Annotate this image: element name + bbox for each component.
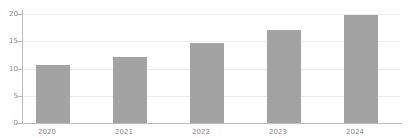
plot-area xyxy=(22,8,400,123)
x-tick-label-2020: 2020 xyxy=(19,128,75,136)
x-tick-label-2023: 2023 xyxy=(250,128,306,136)
y-tick-label-5: 5 xyxy=(4,92,18,100)
bar-2020[interactable] xyxy=(36,65,70,123)
bar-2024[interactable] xyxy=(344,15,378,123)
bar-2022[interactable] xyxy=(190,43,224,123)
bar-2023[interactable] xyxy=(267,30,301,123)
x-axis-line xyxy=(16,123,402,124)
x-tick-label-2024: 2024 xyxy=(327,128,383,136)
bar-chart: 20 15 10 5 0 2020 2021 2022 2023 2024 xyxy=(0,0,410,138)
y-tick-label-0: 0 xyxy=(4,119,18,127)
bar-2021[interactable] xyxy=(113,57,147,123)
x-tick-label-2021: 2021 xyxy=(96,128,152,136)
x-tick-label-2022: 2022 xyxy=(173,128,229,136)
y-axis-line xyxy=(22,10,23,124)
y-tick-label-10: 10 xyxy=(4,65,18,73)
y-tick-label-20: 20 xyxy=(4,10,18,18)
y-tick-label-15: 15 xyxy=(4,37,18,45)
